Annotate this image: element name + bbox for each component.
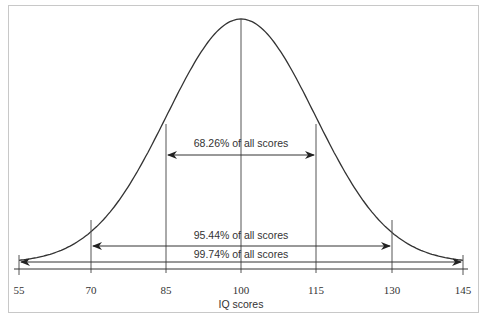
tick-85: 85 — [161, 284, 173, 296]
annotation-68: 68.26% of all scores — [194, 137, 289, 149]
normal-distribution-chart: 68.26% of all scores 95.44% of all score… — [0, 0, 487, 321]
tick-145: 145 — [455, 284, 472, 296]
tick-130: 130 — [384, 284, 401, 296]
tick-55: 55 — [14, 284, 26, 296]
tick-100: 100 — [233, 284, 250, 296]
annotation-95: 95.44% of all scores — [194, 229, 289, 241]
annotation-99: 99.74% of all scores — [194, 248, 289, 260]
x-axis-label: IQ scores — [219, 298, 264, 310]
tick-70: 70 — [86, 284, 98, 296]
tick-115: 115 — [308, 284, 325, 296]
